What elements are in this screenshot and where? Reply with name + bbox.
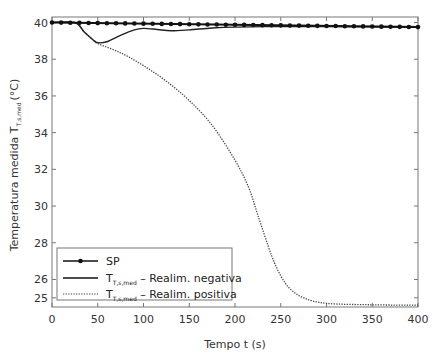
y-tick-label: 25 (34, 292, 48, 305)
sp-marker (169, 22, 174, 27)
sp-marker (251, 23, 256, 28)
sp-marker (297, 23, 302, 28)
sp-marker (214, 22, 219, 27)
y-axis-title-subscript: T,s,med (15, 102, 22, 127)
sp-marker (105, 21, 110, 26)
sp-marker (160, 22, 165, 27)
sp-marker (178, 22, 183, 27)
sp-marker (306, 23, 311, 28)
y-axis-title: Temperatura medida TT,s,med(°C) (8, 79, 22, 253)
y-tick-label: 26 (34, 273, 48, 286)
y-tick-label: 32 (34, 163, 48, 176)
legend: SPTT,s,med – Realim. negativaTT,s,med – … (57, 248, 242, 302)
sp-marker (397, 25, 402, 30)
legend-marker (78, 259, 83, 264)
sp-marker (361, 24, 366, 29)
y-tick-label: 28 (34, 237, 48, 250)
sp-marker (68, 20, 73, 25)
x-tick-label: 0 (49, 313, 56, 326)
sp-marker (343, 24, 348, 29)
sp-marker (114, 21, 119, 26)
y-tick-label: 34 (34, 127, 48, 140)
sp-marker (196, 22, 201, 27)
sp-marker (269, 23, 274, 28)
sp-marker (233, 23, 238, 28)
sp-marker (278, 23, 283, 28)
sp-marker (416, 25, 421, 30)
sp-marker (388, 24, 393, 29)
y-axis-title-main: Temperatura medida T (8, 126, 21, 252)
x-tick-label: 150 (179, 313, 200, 326)
sp-marker (242, 23, 247, 28)
y-tick-label: 30 (34, 200, 48, 213)
sp-marker (95, 21, 100, 26)
svg-text:Temperatura medida TT,s,med(°C: Temperatura medida TT,s,med(°C) (8, 79, 22, 253)
sp-marker (86, 21, 91, 26)
y-axis-title-unit: (°C) (8, 79, 21, 101)
x-tick-label: 100 (133, 313, 154, 326)
sp-marker (187, 22, 192, 27)
sp-marker (379, 24, 384, 29)
sp-marker (141, 21, 146, 26)
sp-marker (333, 24, 338, 29)
legend-label: SP (106, 255, 120, 268)
sp-marker (352, 24, 357, 29)
sp-marker (59, 20, 64, 25)
x-tick-label: 250 (270, 313, 291, 326)
sp-marker (205, 22, 210, 27)
sp-marker (123, 21, 128, 26)
sp-marker (150, 21, 155, 26)
x-tick-label: 300 (316, 313, 337, 326)
x-tick-label: 50 (91, 313, 105, 326)
sp-marker (288, 23, 293, 28)
sp-marker (224, 22, 229, 27)
sp-marker (407, 25, 412, 30)
sp-marker (50, 20, 55, 25)
y-tick-label: 38 (34, 53, 48, 66)
x-tick-label: 350 (362, 313, 383, 326)
y-tick-label: 40 (34, 17, 48, 30)
x-tick-label: 400 (408, 313, 429, 326)
sp-marker (132, 21, 137, 26)
line-chart: 252628303234363840 050100150200250300350… (0, 0, 443, 361)
sp-marker (324, 24, 329, 29)
sp-marker (260, 23, 265, 28)
sp-marker (77, 21, 82, 26)
x-tick-label: 200 (225, 313, 246, 326)
x-axis-title: Tempo t (s) (203, 338, 266, 351)
y-tick-label: 36 (34, 90, 48, 103)
sp-marker (370, 24, 375, 29)
sp-marker (315, 24, 320, 29)
